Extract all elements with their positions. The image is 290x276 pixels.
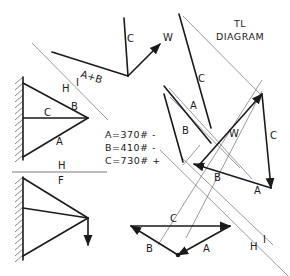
force-b: B=410# - — [105, 142, 156, 153]
member-b — [23, 83, 88, 118]
label-f: F — [58, 175, 64, 186]
title-line1: TL — [233, 18, 246, 29]
lower-wall — [15, 177, 23, 262]
force-results: A=370# - B=410# - C=730# + — [105, 129, 161, 166]
force-triangle: C B A — [131, 213, 230, 257]
label-i: I — [76, 77, 79, 88]
label-a: A — [190, 100, 197, 111]
title-line2: DIAGRAM — [216, 31, 264, 42]
label-b-bottom: B — [214, 172, 221, 183]
label-a-bottom: A — [254, 185, 261, 196]
divider: H F — [12, 160, 107, 186]
label-i: I — [263, 234, 266, 245]
label-b: B — [146, 243, 153, 254]
label-a-plus-b: A+B — [79, 68, 103, 85]
label-c-top: C — [198, 73, 205, 84]
lower-truss — [23, 178, 88, 256]
origin-dot — [176, 253, 181, 258]
tl-diagram: C A B W C B A H I — [158, 14, 288, 276]
upper-truss: B C A — [23, 83, 88, 157]
upper-wall-hatching — [15, 77, 23, 162]
space-diagram: A+B C W — [52, 18, 173, 85]
label-h: H — [58, 160, 66, 171]
label-c: C — [170, 213, 177, 224]
label-w: W — [229, 128, 239, 139]
label-b: B — [182, 125, 189, 136]
tl-title: TL DIAGRAM — [216, 18, 264, 42]
lower-wall-hatching — [15, 177, 23, 262]
label-c: C — [127, 33, 134, 44]
label-a: A — [203, 243, 210, 254]
label-c-right: C — [270, 130, 277, 141]
upper-wall — [15, 77, 23, 162]
label-h: H — [62, 83, 70, 94]
label-c: C — [44, 107, 51, 118]
force-a: A=370# - — [105, 129, 156, 140]
label-w: W — [163, 32, 173, 43]
label-h: H — [250, 241, 258, 252]
force-c: C=730# + — [105, 155, 161, 166]
truss-diagram: B C A H I A=370# - B=410# - C=730# + H F — [0, 0, 290, 276]
label-a: A — [56, 136, 63, 147]
label-b: B — [71, 101, 78, 112]
